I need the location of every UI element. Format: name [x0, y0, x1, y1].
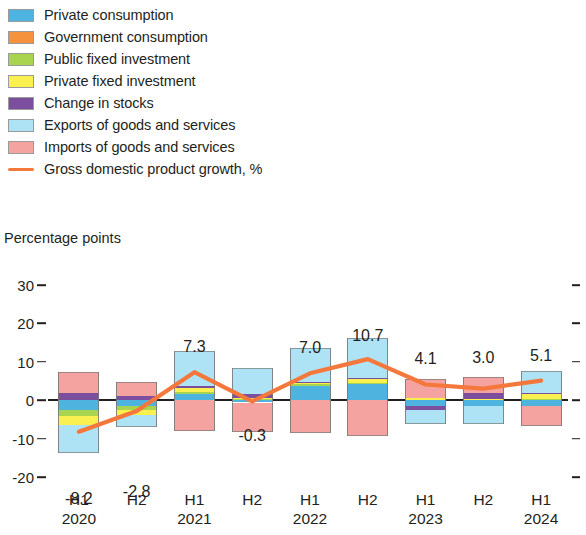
legend-item-public_fixed_investment: Public fixed investment — [8, 48, 428, 70]
legend-item-private_fixed_investment: Private fixed investment — [8, 70, 428, 92]
legend-label-gdp_growth: Gross domestic product growth, % — [44, 162, 262, 177]
x-axis-label-h1-2022: H12022 — [293, 490, 327, 528]
y-axis-tick-mark — [37, 399, 46, 401]
legend-color-swatch-exports — [8, 119, 34, 132]
stacked-bar-h1-2020 — [58, 255, 99, 497]
legend-item-government_consumption: Government consumption — [8, 26, 428, 48]
x-axis-year: 2024 — [524, 509, 558, 528]
y-axis-tick-mark-right — [572, 323, 580, 325]
y-axis-tick-mark — [37, 361, 46, 363]
x-axis-labels: H12020H2H12021H2H12022H2H12023H2H12024 — [0, 490, 586, 535]
stacked-bar-h1-2023 — [405, 255, 446, 497]
x-axis-label-h1-2021: H12021 — [177, 490, 211, 528]
bar-positive-outline — [116, 382, 157, 400]
legend-label-exports: Exports of goods and services — [44, 118, 235, 133]
legend-label-public_fixed_investment: Public fixed investment — [44, 52, 190, 67]
stacked-bar-h2-2021 — [232, 255, 273, 497]
x-axis-year: 2023 — [408, 509, 442, 528]
gdp-value-label: 5.1 — [530, 347, 552, 365]
gdp-value-label: 7.3 — [183, 338, 205, 356]
bar-negative-outline — [116, 400, 157, 426]
x-axis-label-h2-2022: H2 — [358, 490, 378, 509]
x-axis-period: H1 — [531, 491, 551, 508]
legend-label-private_fixed_investment: Private fixed investment — [44, 74, 196, 89]
legend-item-gdp_growth: Gross domestic product growth, % — [8, 158, 428, 180]
stacked-bar-h1-2021 — [174, 255, 215, 497]
bar-positive-outline — [521, 371, 562, 400]
y-axis-tick-label: -20 — [0, 469, 34, 486]
legend-color-swatch-public_fixed_investment — [8, 53, 34, 66]
legend-color-swatch-imports — [8, 141, 34, 154]
bar-negative-outline — [347, 400, 388, 436]
bar-negative-outline — [174, 400, 215, 431]
y-axis-tick-mark — [37, 476, 46, 478]
legend-item-change_in_stocks: Change in stocks — [8, 92, 428, 114]
bar-negative-outline — [58, 400, 99, 453]
y-axis-tick-mark — [37, 323, 46, 325]
bar-positive-outline — [347, 338, 388, 400]
bar-negative-outline — [463, 400, 504, 423]
x-axis-label-h2-2023: H2 — [473, 490, 493, 509]
legend-label-government_consumption: Government consumption — [44, 30, 208, 45]
x-axis-period: H1 — [416, 491, 436, 508]
y-axis-tick-mark-right — [572, 476, 580, 478]
x-axis-year: 2020 — [62, 509, 96, 528]
x-axis-year: 2021 — [177, 509, 211, 528]
x-axis-label-h1-2023: H12023 — [408, 490, 442, 528]
x-axis-label-h1-2020: H12020 — [62, 490, 96, 528]
x-axis-period: H1 — [185, 491, 205, 508]
legend-item-imports: Imports of goods and services — [8, 136, 428, 158]
y-axis-tick-mark-right — [572, 361, 580, 363]
x-axis-year: 2022 — [293, 509, 327, 528]
gdp-value-label: 7.0 — [299, 339, 321, 357]
y-axis-tick-label: 30 — [0, 277, 34, 294]
bar-negative-outline — [521, 400, 562, 425]
legend-item-private_consumption: Private consumption — [8, 4, 428, 26]
stacked-bar-h2-2022 — [347, 255, 388, 497]
legend-color-swatch-government_consumption — [8, 31, 34, 44]
y-axis-tick-label: 20 — [0, 315, 34, 332]
y-axis-tick-label: -10 — [0, 430, 34, 447]
bar-positive-outline — [58, 372, 99, 400]
y-axis-title: Percentage points — [4, 230, 121, 246]
y-axis-tick-mark — [37, 438, 46, 440]
stacked-bar-h2-2020 — [116, 255, 157, 497]
x-axis-period: H2 — [242, 491, 262, 508]
legend-line-swatch-gdp_growth — [8, 163, 34, 176]
x-axis-period: H2 — [358, 491, 378, 508]
legend-label-change_in_stocks: Change in stocks — [44, 96, 154, 111]
legend-label-private_consumption: Private consumption — [44, 8, 173, 23]
legend-label-imports: Imports of goods and services — [44, 140, 235, 155]
legend: Private consumptionGovernment consumptio… — [8, 4, 428, 180]
legend-color-swatch-private_consumption — [8, 9, 34, 22]
stacked-bar-h2-2023 — [463, 255, 504, 497]
gdp-value-label: -0.3 — [238, 427, 266, 445]
legend-color-swatch-private_fixed_investment — [8, 75, 34, 88]
x-axis-label-h2-2020: H2 — [127, 490, 147, 509]
y-axis-tick-mark — [37, 284, 46, 286]
x-axis-period: H1 — [69, 491, 89, 508]
x-axis-period: H2 — [127, 491, 147, 508]
x-axis-label-h2-2021: H2 — [242, 490, 262, 509]
gdp-value-label: 10.7 — [352, 327, 383, 345]
bar-positive-outline — [174, 351, 215, 400]
stacked-bar-h1-2022 — [290, 255, 331, 497]
x-axis-period: H2 — [473, 491, 493, 508]
legend-item-exports: Exports of goods and services — [8, 114, 428, 136]
gdp-value-label: 4.1 — [414, 350, 436, 368]
bar-positive-outline — [232, 368, 273, 401]
y-axis-tick-mark-right — [572, 399, 580, 401]
legend-color-swatch-change_in_stocks — [8, 97, 34, 110]
y-axis-tick-label: 0 — [0, 392, 34, 409]
bar-positive-outline — [463, 377, 504, 400]
bar-negative-outline — [405, 400, 446, 424]
x-axis-label-h1-2024: H12024 — [524, 490, 558, 528]
stacked-bar-h1-2024 — [521, 255, 562, 497]
bar-negative-outline — [290, 400, 331, 433]
y-axis-tick-mark-right — [572, 284, 580, 286]
y-axis-tick-mark-right — [572, 438, 580, 440]
x-axis-period: H1 — [300, 491, 320, 508]
bar-positive-outline — [405, 379, 446, 400]
gdp-value-label: 3.0 — [472, 349, 494, 367]
y-axis-tick-label: 10 — [0, 353, 34, 370]
